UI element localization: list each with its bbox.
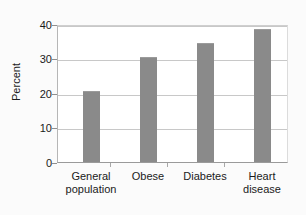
- bar-chart-figure: Percent 40 30 20 10 0: [0, 0, 306, 215]
- x-tick-mark-1: [110, 163, 111, 167]
- x-tick-mark-3: [224, 163, 225, 167]
- y-axis-title: Percent: [10, 52, 22, 112]
- x-category-label-line-1: Heart: [225, 170, 299, 183]
- x-category-label-heart-disease: Heart disease: [225, 170, 299, 195]
- y-tick-label-0: 0: [30, 158, 52, 169]
- bar-diabetes: [197, 43, 214, 162]
- y-tick-label-40: 40: [30, 20, 52, 31]
- bar-obese: [140, 57, 157, 162]
- bar-general-population: [83, 91, 100, 162]
- y-tick-label-30: 30: [30, 54, 52, 65]
- x-tick-mark-2: [167, 163, 168, 167]
- plot-area: [57, 25, 288, 163]
- y-tick-mark-0: [52, 163, 57, 164]
- bars-layer: [58, 26, 287, 162]
- y-tick-label-20: 20: [30, 89, 52, 100]
- x-category-label-line-2: disease: [225, 183, 299, 196]
- y-axis-tick-labels: 40 30 20 10 0: [27, 0, 52, 215]
- y-tick-label-10: 10: [30, 123, 52, 134]
- x-category-label-line-2: population: [54, 183, 128, 196]
- bar-heart-disease: [254, 29, 271, 162]
